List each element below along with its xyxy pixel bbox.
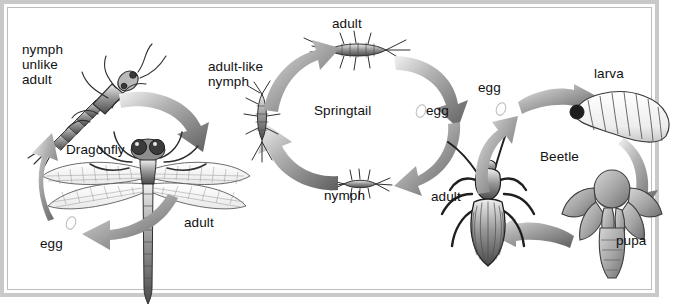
label-beetle-larva: larva	[594, 66, 624, 81]
label-springtail-nymph: nymph	[324, 188, 365, 203]
cycle-beetle: egg larva pupa adult Beetle	[432, 8, 667, 298]
label-springtail-adult: adult	[332, 16, 362, 31]
figure-inner-frame: nymph unlike adult Dragonfly adult egg	[7, 7, 652, 290]
label-dragonfly-egg: egg	[40, 236, 63, 251]
label-springtail-name: Springtail	[314, 103, 371, 118]
arrow-beetle-adult-to-egg	[462, 110, 522, 196]
label-beetle-adult: adult	[431, 189, 461, 204]
label-springtail-adult-like-nymph: adult-like nymph	[208, 59, 263, 89]
label-beetle-name: Beetle	[540, 149, 579, 164]
label-beetle-egg: egg	[478, 80, 501, 95]
label-beetle-pupa: pupa	[616, 233, 646, 248]
label-dragonfly-nymph: nymph unlike adult	[22, 42, 63, 87]
cycle-springtail: adult egg nymph adult-like nymph Springt…	[204, 8, 444, 298]
label-dragonfly-name: Dragonfly	[66, 142, 125, 157]
